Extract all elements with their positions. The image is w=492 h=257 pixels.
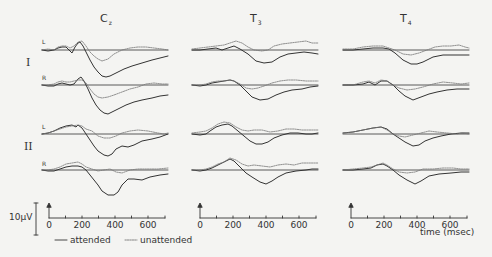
scale-bar-label: 10µV — [9, 212, 32, 222]
x-axis-label: time (msec) — [420, 227, 474, 237]
waveform-plot — [0, 0, 492, 257]
tick-label: 200 — [224, 220, 241, 230]
tick-label: 400 — [257, 220, 274, 230]
tick-label: 0 — [348, 220, 354, 230]
tick-label: 400 — [106, 220, 123, 230]
tick-label: 600 — [139, 220, 156, 230]
tick-label: 600 — [290, 220, 307, 230]
panel-cz — [42, 41, 168, 195]
tick-label: 0 — [46, 220, 52, 230]
tick-label: 200 — [375, 220, 392, 230]
panel-t3 — [192, 41, 318, 184]
erp-figure: Cz T3 T4 I II L R L R — [0, 0, 492, 257]
tick-label: 0 — [197, 220, 203, 230]
legend-unattended: unattended — [140, 235, 192, 245]
legend-attended: attended — [70, 235, 111, 245]
panel-t4 — [343, 45, 469, 184]
tick-label: 200 — [73, 220, 90, 230]
